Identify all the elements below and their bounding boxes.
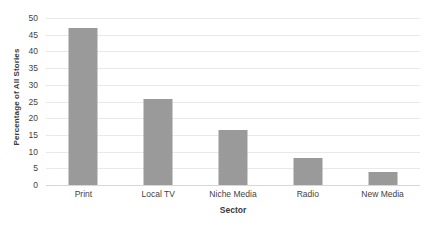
bar[interactable] (218, 130, 247, 185)
bar-series (46, 18, 420, 185)
y-tick-label: 20 (4, 113, 38, 123)
bar[interactable] (69, 28, 98, 185)
y-tick-label: 0 (4, 180, 38, 190)
y-tick-label: 5 (4, 163, 38, 173)
bar-slot (345, 18, 420, 185)
y-axis-ticks: 05101520253035404550 (0, 18, 42, 185)
y-tick-label: 50 (4, 13, 38, 23)
x-tick-label: Print (46, 189, 121, 205)
x-tick-label: New Media (345, 189, 420, 205)
y-tick-label: 25 (4, 97, 38, 107)
y-tick-label: 10 (4, 147, 38, 157)
bar[interactable] (144, 99, 173, 185)
bar-slot (196, 18, 271, 185)
bar-slot (46, 18, 121, 185)
bar-chart: Percentage of All Stories 05101520253035… (0, 0, 428, 234)
gridline (46, 185, 420, 186)
y-tick-label: 30 (4, 80, 38, 90)
bar[interactable] (293, 158, 322, 185)
y-tick-label: 45 (4, 30, 38, 40)
x-tick-label: Niche Media (196, 189, 271, 205)
x-tick-label: Radio (270, 189, 345, 205)
x-axis-title: Sector (46, 205, 420, 215)
y-tick-label: 40 (4, 46, 38, 56)
y-tick-label: 15 (4, 130, 38, 140)
plot-area (46, 18, 420, 185)
x-axis-ticks: PrintLocal TVNiche MediaRadioNew Media (46, 189, 420, 205)
y-tick-label: 35 (4, 63, 38, 73)
bar-slot (270, 18, 345, 185)
bar-slot (121, 18, 196, 185)
x-tick-label: Local TV (121, 189, 196, 205)
bar[interactable] (368, 172, 397, 185)
